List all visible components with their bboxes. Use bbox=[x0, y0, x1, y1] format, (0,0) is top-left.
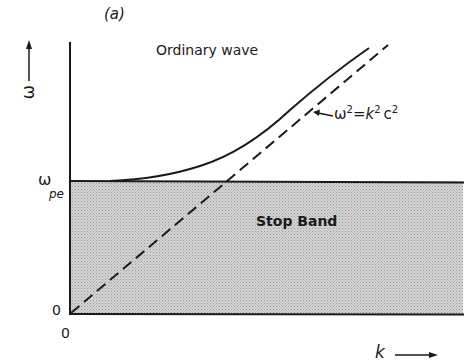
origin-y-label: 0 bbox=[52, 302, 61, 318]
origin-x-label: 0 bbox=[61, 325, 70, 341]
eq-c-sup: 2 bbox=[392, 104, 398, 115]
eq-k-sup: 2 bbox=[374, 104, 380, 115]
eq-k: =k bbox=[353, 105, 374, 123]
stop-band-label: Stop Band bbox=[256, 213, 337, 229]
k-axis-label: k bbox=[375, 342, 385, 362]
annotation-arrow-line bbox=[318, 113, 333, 116]
omega-pe-subscript: pe bbox=[49, 187, 64, 201]
light-line-equation: ω2=k2c2 bbox=[334, 104, 398, 123]
omega-axis-label: ω bbox=[18, 85, 38, 99]
x-axis bbox=[69, 314, 464, 315]
eq-c: c bbox=[384, 105, 392, 123]
stop-band-region bbox=[70, 181, 463, 314]
k-axis-arrow-head bbox=[429, 352, 438, 358]
panel-label: (a) bbox=[104, 5, 125, 23]
ordinary-wave-label: Ordinary wave bbox=[156, 42, 258, 58]
omega-axis-arrow-head bbox=[26, 40, 32, 49]
eq-omega: ω bbox=[334, 105, 347, 123]
ordinary-wave-curve bbox=[110, 48, 369, 181]
annotation-arrow-head bbox=[313, 110, 320, 117]
